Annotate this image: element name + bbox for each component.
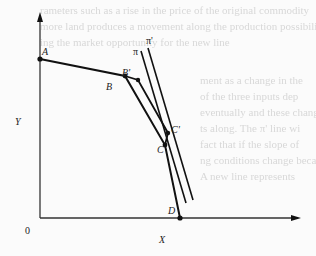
label-a: A — [41, 46, 49, 57]
x-axis-arrow-icon — [291, 215, 301, 221]
label-c: C — [157, 144, 164, 155]
label-d: D — [167, 205, 176, 216]
point-d-dot — [177, 215, 182, 220]
point-a-dot — [37, 56, 42, 61]
origin-label: 0 — [25, 225, 30, 236]
y-axis-arrow-icon — [37, 12, 43, 22]
label-b-prime: B' — [122, 67, 131, 78]
production-possibility-diagram: A B B' C C' D π π' Y X 0 — [0, 0, 316, 256]
label-pi: π — [133, 46, 138, 57]
label-b: B — [106, 81, 112, 92]
x-axis-label: X — [158, 234, 166, 245]
label-pi-prime: π' — [146, 35, 153, 46]
point-c-prime-dot — [166, 131, 170, 135]
label-c-prime: C' — [171, 124, 181, 135]
point-b-prime-dot — [136, 78, 140, 82]
y-axis-label: Y — [15, 116, 22, 127]
